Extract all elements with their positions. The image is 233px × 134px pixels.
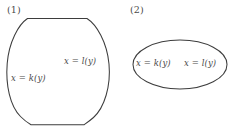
annotation-panel1-left-boundary: x = k(y) xyxy=(11,74,46,83)
panel-label-2: (2) xyxy=(130,5,144,15)
annotation-panel2-right-boundary: x = l(y) xyxy=(184,59,216,68)
region-outline-vase xyxy=(7,19,110,125)
figure-page: { "figure": { "background_color": "#ffff… xyxy=(0,0,233,134)
annotation-panel1-right-boundary: x = l(y) xyxy=(64,57,96,66)
annotation-panel2-left-boundary: x = k(y) xyxy=(136,59,171,68)
panel-label-1: (1) xyxy=(7,5,21,15)
